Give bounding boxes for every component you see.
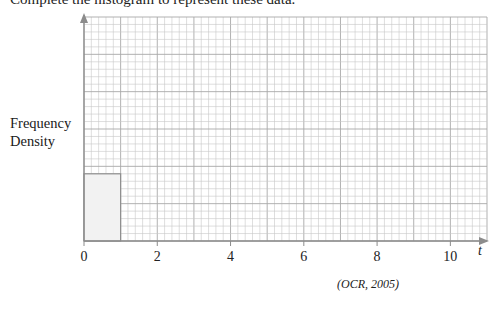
x-tick-label: 6 — [300, 249, 307, 265]
x-tick-label: 2 — [154, 249, 161, 265]
x-tick-label: 0 — [81, 249, 88, 265]
x-axis-label: t — [478, 243, 482, 259]
x-tick-label: 4 — [227, 249, 234, 265]
y-axis-arrow-icon — [80, 13, 88, 23]
histogram-grid — [0, 0, 496, 311]
histogram-bar — [84, 174, 121, 241]
x-tick-label: 10 — [443, 249, 457, 265]
x-tick-label: 8 — [374, 249, 381, 265]
source-caption: (OCR, 2005) — [337, 277, 399, 292]
